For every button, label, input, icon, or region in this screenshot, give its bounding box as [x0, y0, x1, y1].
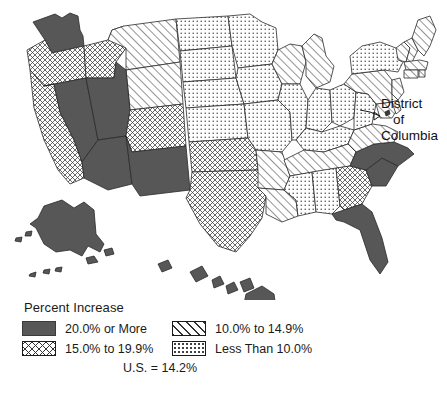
legend-national-row: U.S. = 14.2%	[22, 361, 322, 375]
state-TX	[186, 170, 266, 252]
state-ND	[176, 16, 232, 51]
state-MA	[404, 60, 428, 70]
state-NY	[350, 42, 404, 74]
state-FL	[332, 204, 388, 274]
state-MT	[108, 19, 180, 70]
legend-swatch-diagonal	[172, 321, 206, 336]
state-MI	[302, 34, 334, 88]
us-map-svg	[0, 0, 447, 300]
legend: Percent Increase 20.0% or More 10.0% to …	[22, 300, 322, 375]
legend-entry-10-to-14: 10.0% to 14.9%	[172, 321, 322, 336]
state-NE	[183, 78, 244, 108]
legend-label-15-to-19: 15.0% to 19.9%	[65, 342, 153, 356]
legend-swatch-solid	[22, 321, 56, 336]
legend-row-1: 20.0% or More 10.0% to 14.9%	[22, 321, 322, 336]
state-MN	[228, 14, 278, 68]
state-AR	[256, 150, 290, 190]
legend-label-10-to-14: 10.0% to 14.9%	[215, 322, 303, 336]
legend-entry-20-or-more: 20.0% or More	[22, 321, 172, 336]
state-OK	[189, 138, 258, 172]
state-AL	[312, 168, 340, 214]
state-IN	[306, 88, 332, 132]
us-choropleth-map-figure: District of Columbia Percent Increase 20…	[0, 0, 447, 395]
dc-line-3: Columbia	[381, 128, 438, 144]
legend-entry-less-than-10: Less Than 10.0%	[172, 341, 322, 356]
legend-swatch-dotted	[172, 341, 206, 356]
state-SD	[180, 46, 236, 82]
legend-national-total: U.S. = 14.2%	[123, 361, 197, 375]
state-HI	[158, 260, 276, 300]
state-AK	[30, 200, 104, 256]
state-CT	[404, 70, 418, 78]
legend-label-less-than-10: Less Than 10.0%	[215, 342, 312, 356]
state-WY	[126, 62, 183, 110]
legend-swatch-crosshatch	[22, 341, 56, 356]
legend-entry-15-to-19: 15.0% to 19.9%	[22, 341, 172, 356]
legend-label-20-or-more: 20.0% or More	[65, 322, 147, 336]
legend-title: Percent Increase	[24, 300, 322, 315]
legend-row-2: 15.0% to 19.9% Less Than 10.0%	[22, 341, 322, 356]
state-RI	[419, 70, 425, 77]
state-CO	[126, 104, 186, 152]
state-KS	[186, 104, 248, 142]
dc-leader-line	[350, 100, 390, 130]
